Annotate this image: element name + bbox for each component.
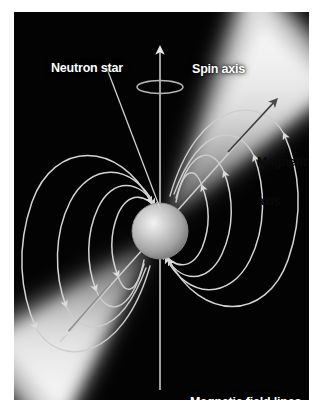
figure-root: Neutron star Spin axis Magnetic axis Mag…: [0, 0, 324, 419]
diagram-canvas: [14, 12, 309, 400]
diagram-panel: Neutron star Spin axis Magnetic axis Mag…: [14, 12, 309, 400]
neutron-star: [132, 203, 188, 259]
neutron-star-leader-line: [106, 66, 166, 224]
